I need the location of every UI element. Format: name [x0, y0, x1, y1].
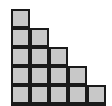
unit-square — [69, 86, 86, 103]
unit-square — [12, 67, 29, 84]
unit-square — [50, 105, 67, 106]
staircase-figure-canvas — [0, 0, 112, 106]
unit-square — [50, 48, 67, 65]
unit-square — [12, 10, 29, 27]
unit-square — [31, 48, 48, 65]
unit-square — [31, 29, 48, 46]
unit-square — [12, 48, 29, 65]
unit-square — [69, 67, 86, 84]
unit-square — [31, 86, 48, 103]
unit-square — [12, 86, 29, 103]
unit-square — [69, 105, 86, 106]
unit-square — [12, 29, 29, 46]
unit-square — [31, 67, 48, 84]
unit-square — [50, 86, 67, 103]
unit-square — [88, 86, 105, 103]
unit-square — [31, 105, 48, 106]
unit-square — [12, 105, 29, 106]
unit-square — [50, 67, 67, 84]
unit-square — [88, 105, 105, 106]
staircase-figure-svg — [0, 0, 112, 106]
